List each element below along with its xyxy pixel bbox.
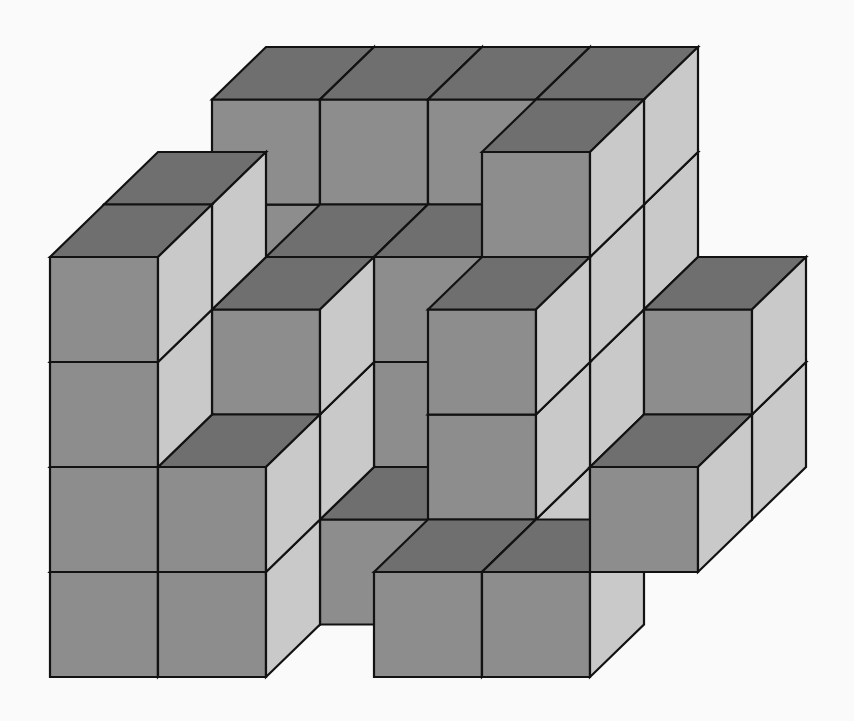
cube-front-face	[50, 467, 158, 572]
cube-front-face	[374, 572, 482, 677]
cube-stack-drawing	[0, 0, 854, 721]
cube-front-face	[428, 310, 536, 415]
cube-front-face	[212, 310, 320, 415]
cube-front-face	[428, 415, 536, 520]
cube-front-face	[50, 257, 158, 362]
cube-front-face	[50, 572, 158, 677]
cube-front-face	[482, 152, 590, 257]
cube-front-face	[158, 467, 266, 572]
cube-figure: 3D cube stack	[0, 0, 854, 721]
cube-front-face	[50, 362, 158, 467]
cube-front-face	[482, 572, 590, 677]
cube-front-face	[590, 467, 698, 572]
cube-front-face	[320, 100, 428, 205]
cube-front-face	[644, 310, 752, 415]
cube-front-face	[158, 572, 266, 677]
